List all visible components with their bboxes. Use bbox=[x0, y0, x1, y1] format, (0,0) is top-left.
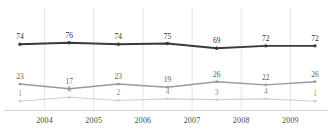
data-point-marker bbox=[68, 87, 71, 90]
data-point-marker bbox=[166, 86, 169, 89]
data-point-marker bbox=[215, 98, 218, 101]
data-point-marker bbox=[215, 80, 218, 83]
data-point-marker bbox=[67, 41, 70, 44]
data-point-marker bbox=[264, 44, 267, 47]
data-point-marker bbox=[264, 97, 267, 100]
data-point-marker bbox=[117, 99, 120, 102]
data-point-marker bbox=[314, 100, 317, 103]
data-point-marker bbox=[313, 44, 316, 47]
data-point-marker bbox=[117, 43, 120, 46]
data-point-marker bbox=[166, 97, 169, 100]
gridlines bbox=[45, 8, 291, 110]
data-series-group bbox=[20, 43, 315, 102]
data-point-marker bbox=[19, 100, 22, 103]
data-point-marker bbox=[264, 83, 267, 86]
data-point-marker bbox=[117, 83, 120, 86]
data-point-marker bbox=[166, 42, 169, 45]
data-point-marker bbox=[68, 96, 71, 99]
data-point-marker bbox=[18, 43, 21, 46]
data-point-marker bbox=[19, 83, 22, 86]
data-point-marker bbox=[314, 80, 317, 83]
chart-plot-area bbox=[0, 0, 332, 132]
line-chart: 7476747569727223172319262226162434120042… bbox=[0, 0, 332, 132]
data-point-marker bbox=[215, 46, 218, 49]
data-point-markers bbox=[18, 41, 316, 103]
